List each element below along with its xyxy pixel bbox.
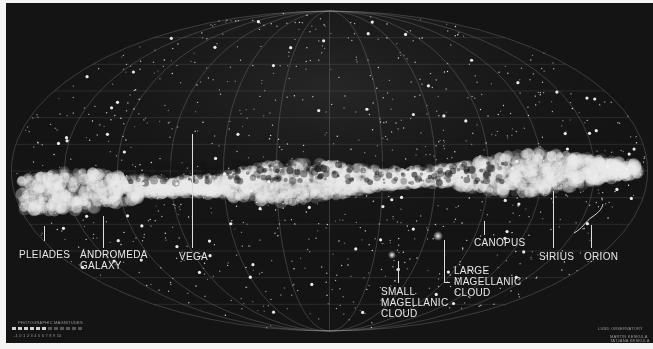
magnitude-scale-numbers: -1 0 1 2 3 4 5 6 7 8 9 10 [14,333,61,338]
sirius-pointer [553,191,554,248]
large-magellanic-pointer [444,240,445,283]
pleiades-pointer [44,226,45,241]
vega-pointer [192,134,193,248]
large-magellanic-pointer-tick [444,282,450,283]
label-canopus: CANOPUS [474,237,526,248]
label-vega: VEGA [179,251,208,262]
label-sirius: SIRIUS [539,251,574,262]
sky-image [6,3,653,343]
label-pleiades: PLEIADES [19,249,70,260]
label-small-magellanic-cloud: SMALL MAGELLANIC CLOUD [381,286,448,319]
canopus-pointer [484,221,485,235]
label-orion: ORION [584,251,618,262]
label-large-magellanic-cloud: LARGE MAGELLANIC CLOUD [454,265,521,298]
legend-title: PHOTOGRAPHIC MAGNITUDES [18,320,83,325]
small-magellanic-pointer [398,261,399,283]
milky-way-panorama: PLEIADES ANDROMEDA GALAXY VEGA SMALL MAG… [6,3,653,343]
observatory-credit: LUND OBSERVATORY [598,326,643,331]
andromeda-pointer [103,216,104,248]
magnitude-scale [12,327,82,330]
orion-outline [572,203,606,237]
author-line-2: TATJANA KESKULA [610,338,650,343]
label-andromeda-galaxy: ANDROMEDA GALAXY [80,249,148,271]
